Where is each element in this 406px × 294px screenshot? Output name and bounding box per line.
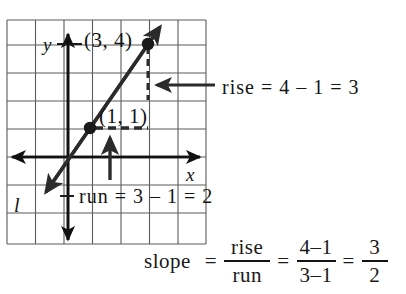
grid-horizontal-lines <box>7 20 206 244</box>
slope-word: slope <box>144 249 191 274</box>
fraction-bar <box>224 260 270 262</box>
slope-equals-1: = <box>205 249 217 274</box>
fraction-numerator-4-minus-1: 4–1 <box>297 236 336 258</box>
point-label-3-4: (3, 4) <box>84 30 133 51</box>
slope-equals-3: = <box>343 249 355 274</box>
fraction-bar <box>362 260 388 262</box>
fraction-numerator-rise: rise <box>228 236 266 258</box>
run-equation: run = 3 – 1 = 2 <box>79 186 213 206</box>
fraction-denominator-run: run <box>229 264 265 286</box>
x-axis-label: x <box>186 165 194 184</box>
point-label-1-1: (1, 1) <box>99 106 148 127</box>
fraction-denominator-3-minus-1: 3–1 <box>297 264 336 286</box>
slope-figure: y x l (3, 4) (1, 1) rise = 4 – 1 = 3 run… <box>0 0 406 294</box>
fraction-numerator-3: 3 <box>366 236 383 258</box>
fraction-result: 3 2 <box>362 236 388 286</box>
point-1-1 <box>84 122 96 134</box>
rise-equation: rise = 4 – 1 = 3 <box>222 77 359 97</box>
y-axis-label: y <box>43 35 51 54</box>
slope-equation: slope = rise run = 4–1 3–1 = 3 2 <box>144 236 388 286</box>
point-3-4 <box>142 38 154 50</box>
fraction-rise-over-run: rise run <box>224 236 270 286</box>
slope-equals-2: = <box>277 249 289 274</box>
line-l-label: l <box>14 195 20 215</box>
fraction-denominator-2: 2 <box>366 264 383 286</box>
grid-vertical-lines <box>7 20 206 244</box>
fraction-bar <box>297 260 336 262</box>
fraction-numeric: 4–1 3–1 <box>297 236 336 286</box>
